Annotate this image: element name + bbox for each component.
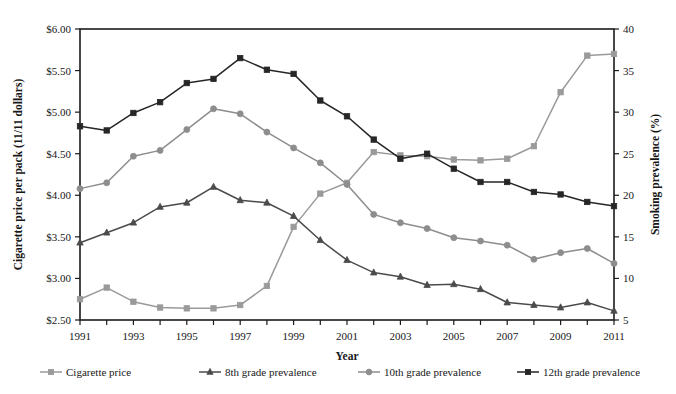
data-point-square (291, 71, 296, 76)
y-axis-title: Cigarette price per pack (11/11 dollars) (12, 79, 25, 271)
data-point-circle (504, 242, 510, 248)
data-point-square (211, 306, 216, 311)
data-point-square (48, 369, 53, 374)
data-point-square (505, 156, 510, 161)
data-point-square (398, 156, 403, 161)
data-point-circle (584, 245, 590, 251)
x-tick-label: 1993 (122, 330, 145, 342)
data-point-square (104, 128, 109, 133)
left-tick-label: $2.50 (46, 314, 71, 326)
data-point-square (318, 98, 323, 103)
legend-item-2[interactable]: 8th grade prevalence (199, 366, 317, 378)
data-point-square (238, 55, 243, 60)
data-point-circle (317, 160, 323, 166)
data-point-square (131, 110, 136, 115)
x-tick-label: 2005 (443, 330, 466, 342)
legend-label: 12th grade prevalence (543, 366, 640, 378)
x-tick-label: 2003 (389, 330, 412, 342)
data-point-circle (451, 235, 457, 241)
legend-item-1[interactable]: Cigarette price (40, 366, 131, 378)
data-point-square (611, 203, 616, 208)
data-point-circle (291, 145, 297, 151)
data-point-circle (184, 127, 190, 133)
data-point-square (424, 151, 429, 156)
x-tick-label: 1997 (229, 330, 252, 342)
x-tick-label: 2009 (550, 330, 573, 342)
data-point-square (157, 99, 162, 104)
data-point-circle (366, 369, 372, 375)
data-point-square (238, 302, 243, 307)
right-tick-label: 15 (623, 231, 635, 243)
x-axis-title: Year (336, 350, 359, 362)
data-point-square (104, 285, 109, 290)
data-point-square (478, 158, 483, 163)
data-point-square (505, 179, 510, 184)
data-point-square (525, 369, 530, 374)
data-point-square (611, 51, 616, 56)
data-point-circle (211, 106, 217, 112)
data-point-circle (478, 238, 484, 244)
data-point-square (264, 67, 269, 72)
data-point-circle (77, 186, 83, 192)
x-tick-label: 1995 (176, 330, 199, 342)
right-tick-label: 30 (623, 106, 635, 118)
data-point-circle (531, 256, 537, 262)
left-tick-label: $5.00 (46, 106, 71, 118)
y2-axis-title: Smoking prevalence (%) (649, 114, 662, 235)
x-tick-label: 1991 (69, 330, 91, 342)
data-point-square (131, 299, 136, 304)
data-point-square (264, 283, 269, 288)
data-point-square (344, 114, 349, 119)
legend-label: Cigarette price (66, 366, 131, 378)
right-axis: 510152025303540 (614, 23, 635, 326)
figure-container: $2.50$3.00$3.50$4.00$4.50$5.00$5.50$6.00… (0, 0, 676, 394)
data-point-square (478, 179, 483, 184)
chart-legend: Cigarette price8th grade prevalence10th … (40, 366, 640, 378)
left-tick-label: $4.50 (46, 148, 71, 160)
legend-label: 10th grade prevalence (384, 366, 481, 378)
right-tick-label: 35 (623, 65, 635, 77)
data-point-square (77, 297, 82, 302)
right-tick-label: 5 (623, 314, 629, 326)
right-tick-label: 20 (623, 189, 635, 201)
data-point-square (585, 53, 590, 58)
legend-label: 8th grade prevalence (225, 366, 317, 378)
legend-item-4[interactable]: 12th grade prevalence (517, 366, 640, 378)
series-2 (77, 183, 617, 313)
data-point-square (291, 224, 296, 229)
left-axis: $2.50$3.00$3.50$4.00$4.50$5.00$5.50$6.00 (46, 23, 80, 326)
data-point-circle (611, 260, 617, 266)
data-point-circle (424, 226, 430, 232)
data-point-square (558, 89, 563, 94)
legend-item-3[interactable]: 10th grade prevalence (358, 366, 481, 378)
data-point-square (558, 192, 563, 197)
data-point-circle (157, 147, 163, 153)
x-tick-label: 2011 (603, 330, 625, 342)
data-point-square (371, 137, 376, 142)
line-chart: $2.50$3.00$3.50$4.00$4.50$5.00$5.50$6.00… (0, 0, 676, 394)
right-tick-label: 40 (623, 23, 635, 35)
x-tick-label: 2001 (336, 330, 358, 342)
x-tick-label: 2007 (496, 330, 519, 342)
right-tick-label: 25 (623, 148, 635, 160)
data-point-circle (237, 111, 243, 117)
data-point-square (184, 306, 189, 311)
left-tick-label: $4.00 (46, 189, 71, 201)
data-point-circle (397, 220, 403, 226)
data-point-square (531, 189, 536, 194)
data-point-square (77, 124, 82, 129)
data-point-square (184, 80, 189, 85)
left-tick-label: $3.00 (46, 272, 71, 284)
plot-frame (80, 29, 614, 320)
data-point-square (451, 157, 456, 162)
left-tick-label: $3.50 (46, 231, 71, 243)
data-point-circle (558, 250, 564, 256)
x-tick-label: 1999 (283, 330, 306, 342)
data-point-square (318, 191, 323, 196)
data-point-triangle (344, 256, 350, 262)
data-point-circle (130, 153, 136, 159)
series-layer (77, 51, 617, 313)
data-point-square (157, 305, 162, 310)
data-point-square (585, 199, 590, 204)
data-point-square (531, 144, 536, 149)
